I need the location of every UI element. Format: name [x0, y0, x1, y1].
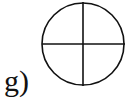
circle-crosshair-diagram: [0, 0, 134, 107]
